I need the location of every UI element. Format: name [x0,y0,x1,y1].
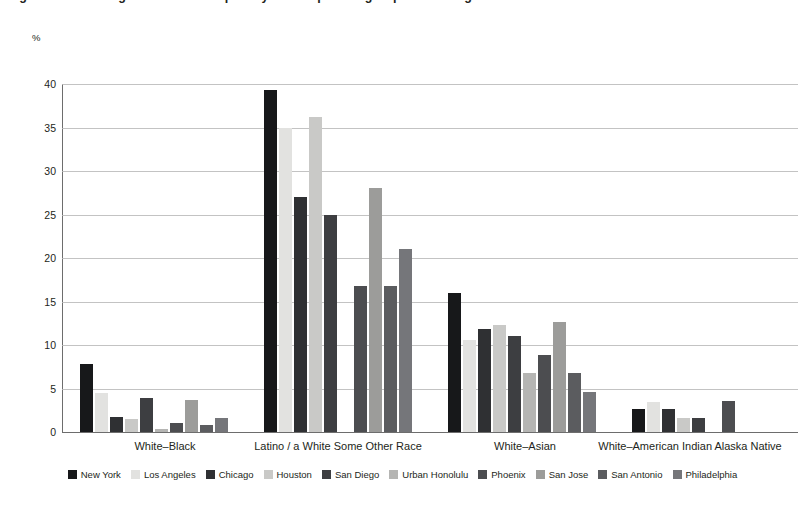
y-axis-tick-label: 25 [10,209,56,220]
gridline [62,432,798,433]
x-axis-group-label: White–American Indian Alaska Native [598,440,781,452]
chart-title: Figure 1. Percentage of married couples … [8,0,798,5]
bar [478,329,491,432]
bar [523,373,536,432]
x-axis-group-label: White–Black [134,440,195,452]
bar [568,373,581,432]
gridline [62,128,798,129]
legend-item[interactable]: New York [68,470,121,480]
bar [264,90,277,432]
bar [95,393,108,432]
bar [170,423,183,432]
bar [200,425,213,432]
bar [692,418,705,432]
y-axis-unit-label: % [32,32,40,43]
y-axis-tick-label: 40 [10,79,56,90]
bar [493,325,506,432]
y-axis-tick-label: 20 [10,253,56,264]
legend-label: Los Angeles [144,470,196,480]
bar [140,398,153,432]
chart-root: Figure 1. Percentage of married couples … [0,0,805,512]
bar [448,293,461,432]
bar [463,340,476,432]
legend-swatch-icon [68,470,77,479]
bar [155,429,168,432]
bar [632,409,645,432]
legend-label: Phoenix [491,470,525,480]
y-axis-tick-labels: 0510152025303540 [0,84,56,432]
gridline [62,345,798,346]
legend-label: Urban Honolulu [402,470,468,480]
chart-legend: New YorkLos AngelesChicagoHoustonSan Die… [0,470,805,480]
bar [662,409,675,432]
legend-item[interactable]: San Diego [322,470,379,480]
legend-swatch-icon [598,470,607,479]
legend-item[interactable]: Houston [264,470,312,480]
legend-label: San Jose [549,470,589,480]
legend-item[interactable]: Phoenix [478,470,525,480]
bar [354,286,367,432]
bar [677,418,690,432]
gridline [62,389,798,390]
legend-label: New York [81,470,121,480]
bar [647,402,660,432]
gridline [62,171,798,172]
bar [294,197,307,432]
legend-item[interactable]: Philadelphia [673,470,738,480]
legend-swatch-icon [478,470,487,479]
legend-label: San Diego [335,470,379,480]
bar [309,117,322,432]
y-axis-tick-label: 30 [10,166,56,177]
bar [369,188,382,432]
bar [185,400,198,432]
bar [722,401,735,432]
legend-swatch-icon [673,470,682,479]
bar [80,364,93,432]
legend-swatch-icon [536,470,545,479]
legend-item[interactable]: Urban Honolulu [389,470,468,480]
y-axis-tick-label: 5 [10,383,56,394]
legend-label: Chicago [219,470,254,480]
legend-item[interactable]: San Jose [536,470,589,480]
bar [553,322,566,432]
x-axis-group-label: Latino / a White Some Other Race [254,440,422,452]
bar [215,418,228,432]
bar [324,215,337,433]
legend-swatch-icon [264,470,273,479]
bar [279,128,292,433]
gridline [62,302,798,303]
legend-label: Houston [277,470,312,480]
bar [508,336,521,432]
bar [125,419,138,432]
gridline [62,215,798,216]
legend-item[interactable]: Los Angeles [131,470,196,480]
legend-swatch-icon [389,470,398,479]
bar [583,392,596,432]
legend-swatch-icon [206,470,215,479]
x-axis-group-label: White–Asian [494,440,556,452]
y-axis-tick-label: 10 [10,340,56,351]
legend-swatch-icon [322,470,331,479]
bar [110,417,123,432]
y-axis-tick-label: 15 [10,296,56,307]
bar [384,286,397,432]
y-axis-tick-label: 0 [10,427,56,438]
gridline [62,84,798,85]
legend-label: San Antonio [611,470,662,480]
y-axis-tick-label: 35 [10,122,56,133]
bar [399,249,412,432]
bar [538,355,551,432]
legend-item[interactable]: Chicago [206,470,254,480]
legend-label: Philadelphia [686,470,738,480]
plot-area [62,84,798,432]
legend-item[interactable]: San Antonio [598,470,662,480]
legend-swatch-icon [131,470,140,479]
gridline [62,258,798,259]
